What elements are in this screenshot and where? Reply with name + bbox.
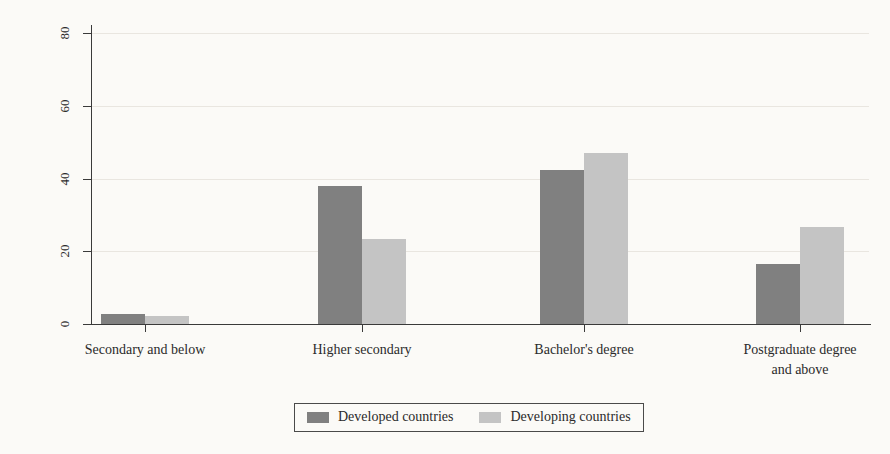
bar-developing xyxy=(145,316,189,324)
bar-developing xyxy=(584,153,628,324)
x-axis-line xyxy=(91,324,871,325)
bars-layer xyxy=(0,25,890,324)
x-axis-tick xyxy=(145,325,146,332)
bar-developing xyxy=(800,227,844,324)
bar-developed xyxy=(318,186,362,324)
legend-item: Developed countries xyxy=(307,409,453,425)
bar-developed xyxy=(101,314,145,324)
bar-developed xyxy=(540,170,584,324)
bar-developed xyxy=(756,264,800,324)
x-axis-category-label: Secondary and below xyxy=(35,340,255,360)
chart-legend: Developed countries Developing countries xyxy=(294,403,644,432)
x-axis-category-label: Postgraduate degree and above xyxy=(690,340,890,380)
x-axis-tick xyxy=(800,325,801,332)
legend-swatch-developed-icon xyxy=(307,412,329,423)
legend-swatch-developing-icon xyxy=(479,412,501,423)
bar-chart: Percentage of respondents 020406080 Seco… xyxy=(0,0,890,454)
x-axis-category-label: Bachelor's degree xyxy=(474,340,694,360)
y-axis-tick xyxy=(83,324,91,325)
x-axis-tick xyxy=(584,325,585,332)
legend-label: Developed countries xyxy=(338,409,453,425)
bar-developing xyxy=(362,239,406,324)
legend-label: Developing countries xyxy=(510,409,630,425)
x-axis-tick xyxy=(362,325,363,332)
legend-item: Developing countries xyxy=(479,409,630,425)
x-axis-category-label: Higher secondary xyxy=(252,340,472,360)
